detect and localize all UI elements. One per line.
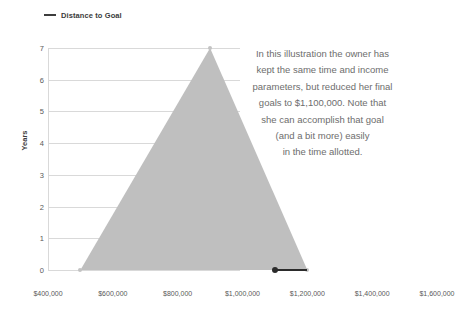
- chart-container: Distance to Goal Years 01234567 $400,000…: [0, 0, 470, 314]
- x-axis-tick-labels: $400,000$600,000$800,000$1,000,000$1,200…: [0, 290, 470, 304]
- y-tick-label-0: 0: [24, 266, 44, 275]
- annotation-line-4: goals to $1,100,000. Note that: [215, 95, 430, 111]
- annotation-line-3: parameters, but reduced her final: [215, 79, 430, 95]
- goal-line-segment: [275, 269, 307, 271]
- annotation-line-6: (and a bit more) easily: [215, 128, 430, 144]
- goal-marker-point: [272, 267, 278, 273]
- annotation-text: In this illustration the owner haskept t…: [215, 46, 430, 161]
- legend-label-distance-to-goal: Distance to Goal: [61, 11, 122, 20]
- y-tick-label-7: 7: [24, 44, 44, 53]
- annotation-line-5: she can accomplish that goal: [215, 112, 430, 128]
- annotation-line-1: In this illustration the owner has: [215, 46, 430, 62]
- annotation-line-2: kept the same time and income: [215, 62, 430, 78]
- y-tick-label-5: 5: [24, 107, 44, 116]
- y-axis-tick-labels: 01234567: [22, 0, 44, 314]
- annotation-line-7: in the time allotted.: [215, 144, 430, 160]
- legend-line-marker-distance-to-goal: [44, 14, 56, 16]
- y-tick-label-6: 6: [24, 75, 44, 84]
- y-tick-label-1: 1: [24, 234, 44, 243]
- y-tick-label-3: 3: [24, 170, 44, 179]
- chart-legend: Distance to Goal: [44, 8, 122, 22]
- gridline-y-0: [48, 270, 240, 271]
- x-tick-label-1600000: $1,600,000: [397, 290, 470, 297]
- data-point-start: [78, 268, 82, 272]
- y-tick-label-4: 4: [24, 139, 44, 148]
- y-tick-label-2: 2: [24, 202, 44, 211]
